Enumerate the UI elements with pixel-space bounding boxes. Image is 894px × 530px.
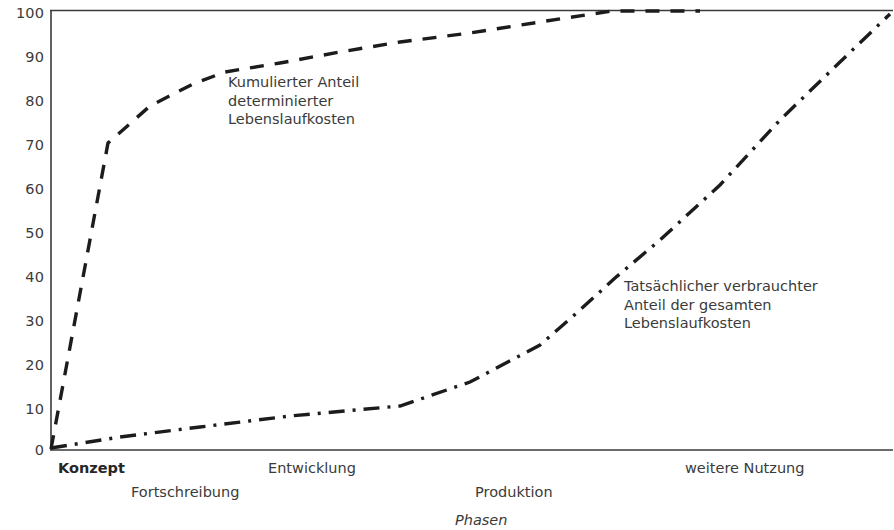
series-actual-costs-line [51,14,890,448]
x-label-entwicklung: Entwicklung [268,461,356,476]
annotation-deterministic-costs-line1: Kumulierter Anteil [228,73,359,92]
x-label-konzept: Konzept [58,461,125,476]
annotation-actual-costs: Tatsächlicher verbrauchter Anteil der ge… [624,277,818,333]
x-label-produktion: Produktion [475,485,553,500]
series-deterministic-costs-line [51,11,700,449]
chart-canvas [0,0,894,530]
annotation-actual-costs-line1: Tatsächlicher verbrauchter [624,277,818,296]
annotation-actual-costs-line2: Anteil der gesamten [624,296,818,315]
x-label-weitere-nutzung: weitere Nutzung [685,461,805,476]
x-label-fortschreibung: Fortschreibung [131,485,239,500]
chart-page: 100 90 80 70 60 50 40 30 20 10 0 Kumulie… [0,0,894,530]
annotation-deterministic-costs: Kumulierter Anteil determinierter Lebens… [228,73,359,129]
annotation-deterministic-costs-line3: Lebenslaufkosten [228,110,359,129]
annotation-deterministic-costs-line2: determinierter [228,92,359,111]
x-axis-title: Phasen [455,512,508,528]
annotation-actual-costs-line3: Lebenslaufkosten [624,314,818,333]
